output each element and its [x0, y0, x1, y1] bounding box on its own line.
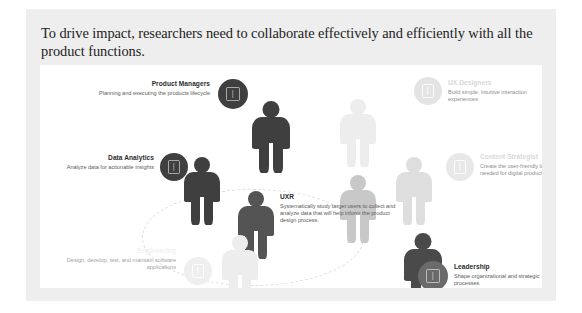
person-figure-bottom-left-faint: [222, 235, 258, 288]
figure-head: [415, 233, 432, 250]
figure-head: [350, 175, 366, 191]
role-description: Design, develop, test, and maintain soft…: [58, 257, 176, 271]
badge-icon: [426, 269, 439, 284]
figure-leg-left: [259, 143, 269, 173]
role-leadership[interactable]: Leadership Shape organizational and stra…: [454, 263, 542, 287]
role-description: Shape organizational and strategic proce…: [454, 273, 542, 287]
role-uxr-center[interactable]: UXR Systematically study target users to…: [280, 193, 398, 224]
figure-leg-gap: [356, 139, 360, 167]
role-title: UXR: [280, 193, 398, 201]
badge-icon: [192, 264, 205, 278]
role-description: Create the user-friendly language needed…: [480, 163, 542, 177]
figure-head: [350, 99, 366, 115]
figure-leg-left: [229, 275, 238, 288]
role-description: Analyze data for actionable insights: [44, 164, 154, 171]
person-figure-top-right-faint: [340, 99, 376, 167]
slide-canvas: To drive impact, researchers need to col…: [26, 9, 556, 301]
role-product-managers[interactable]: Product Managers Planning and executing …: [72, 80, 210, 97]
role-content-strategist[interactable]: Content Strategist Create the user-frien…: [480, 153, 542, 177]
figure-head: [232, 235, 248, 251]
figure-leg-right: [242, 275, 251, 288]
figure-leg-gap: [412, 197, 416, 225]
badge-icon: [422, 84, 435, 98]
person-figure-left: [184, 157, 220, 225]
badge-icon: [454, 160, 467, 174]
person-figure-top-center: [252, 101, 290, 173]
badge-ux-designers: [414, 77, 442, 105]
badge-data-analytics: [160, 153, 188, 181]
figure-head: [406, 157, 422, 173]
figure-leg-gap: [200, 197, 204, 225]
figure-leg-right: [258, 231, 267, 259]
person-figure-right-top: [396, 157, 432, 225]
figure-leg-gap: [269, 143, 273, 173]
role-title: Product Managers: [72, 80, 210, 88]
slide-title: To drive impact, researchers need to col…: [41, 25, 541, 60]
badge-icon: [168, 160, 181, 174]
role-description: Systematically study target users to col…: [280, 203, 398, 224]
role-title: Engineering: [58, 247, 176, 255]
badge-product-managers: [218, 79, 248, 109]
badge-engineering: [184, 257, 212, 285]
role-title: Content Strategist: [480, 153, 542, 161]
diagram-card: Product Managers Planning and executing …: [40, 65, 542, 288]
figure-leg-right: [204, 197, 213, 225]
figure-leg-right: [360, 139, 369, 167]
figure-leg-left: [191, 197, 200, 225]
badge-leadership: [418, 261, 448, 288]
role-description: Planning and executing the products life…: [72, 90, 210, 97]
role-title: UX Designers: [448, 79, 542, 87]
badge-icon: [226, 87, 239, 102]
figure-leg-right: [416, 197, 425, 225]
figure-head: [263, 101, 280, 118]
badge-content-strategist: [446, 153, 474, 181]
figure-leg-left: [403, 197, 412, 225]
role-data-analytics[interactable]: Data Analytics Analyze data for actionab…: [44, 154, 154, 171]
role-title: Leadership: [454, 263, 542, 271]
role-description: Build simple, intuitive interaction expe…: [448, 89, 542, 103]
role-title: Data Analytics: [44, 154, 154, 162]
figure-leg-gap: [238, 275, 242, 288]
figure-head: [194, 157, 210, 173]
figure-leg-right: [273, 143, 283, 173]
role-engineering[interactable]: Engineering Design, develop, test, and m…: [58, 247, 176, 271]
figure-head: [248, 191, 264, 207]
role-ux-designers[interactable]: UX Designers Build simple, intuitive int…: [448, 79, 542, 103]
figure-leg-left: [347, 139, 356, 167]
